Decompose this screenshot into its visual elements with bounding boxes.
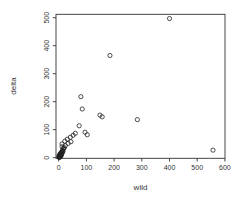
svg-text:0: 0 [43,156,50,160]
tick-labels: 01002003004005006000100200300400500 [43,12,231,172]
svg-text:500: 500 [191,164,203,171]
svg-text:400: 400 [43,40,50,52]
svg-text:600: 600 [219,164,231,171]
svg-text:100: 100 [81,164,93,171]
svg-text:200: 200 [108,164,120,171]
svg-text:300: 300 [136,164,148,171]
scatter-plot: 01002003004005006000100200300400500 wild… [0,0,233,210]
plot-box [56,14,225,158]
svg-text:0: 0 [57,164,61,171]
svg-text:500: 500 [43,12,50,24]
svg-text:100: 100 [43,124,50,136]
y-axis-label: delta [9,77,18,95]
scatter-figure: 01002003004005006000100200300400500 wild… [0,0,233,210]
svg-text:200: 200 [43,96,50,108]
data-points [57,16,215,159]
axis-ticks [53,18,225,162]
x-axis-label: wild [133,183,148,192]
svg-text:300: 300 [43,68,50,80]
svg-text:400: 400 [164,164,176,171]
